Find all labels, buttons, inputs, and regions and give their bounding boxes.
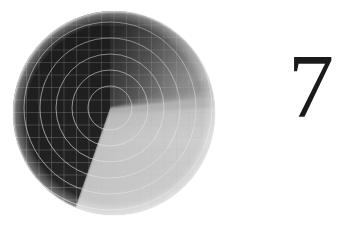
scan-display-canvas — [12, 10, 218, 218]
circular-scan-display — [12, 10, 218, 218]
figure-root: 7 — [0, 0, 346, 228]
plate-number: 7 — [288, 38, 334, 134]
